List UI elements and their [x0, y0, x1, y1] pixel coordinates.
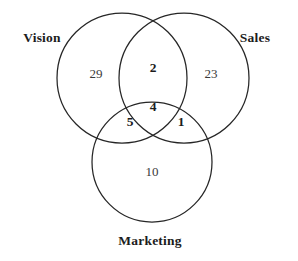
venn-diagram-figure: Vision Sales Marketing 29 2 23 5 4 1 10	[0, 0, 298, 261]
region-count-sales-marketing: 1	[178, 115, 185, 129]
region-count-sales-only: 23	[205, 67, 218, 80]
region-count-vision-only: 29	[90, 67, 103, 80]
region-count-vision-sales-marketing: 4	[150, 100, 157, 114]
region-count-vision-sales: 2	[150, 61, 157, 75]
region-count-marketing-only: 10	[146, 165, 159, 178]
set-label-marketing: Marketing	[118, 234, 181, 248]
venn-circle-vision	[57, 13, 187, 143]
venn-circle-marketing	[92, 102, 212, 222]
set-label-sales: Sales	[240, 31, 270, 45]
set-label-vision: Vision	[23, 31, 60, 45]
region-count-vision-marketing: 5	[127, 115, 134, 129]
